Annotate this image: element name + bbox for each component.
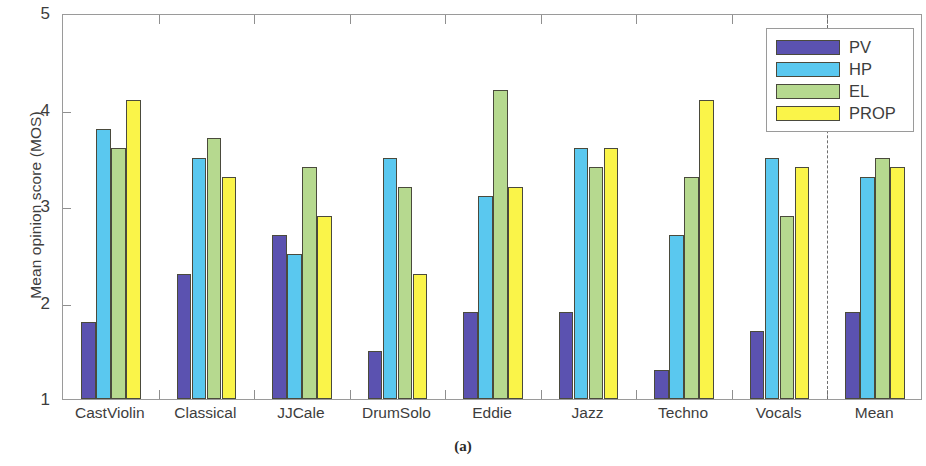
bar [111,148,126,399]
bar [463,312,478,399]
x-axis-tick-mark-top [541,15,542,24]
bar [860,177,875,399]
chart-legend: PV HP EL PROP [766,28,914,132]
bar [398,187,413,399]
legend-swatch-hp [776,62,840,77]
legend-item[interactable]: PROP [776,102,905,124]
y-axis-tick-label: 5 [2,4,50,24]
bar [222,177,237,399]
bar [207,138,222,399]
x-axis-tick-mark-top [254,15,255,24]
bar [780,216,795,399]
y-axis-tick-label: 2 [2,294,50,314]
bar [383,158,398,399]
x-axis-tick-mark-bottom [445,390,446,399]
bar [478,196,493,399]
bar [177,274,192,399]
y-axis-tick-mark [63,112,71,113]
x-axis-tick-mark-top [159,15,160,24]
x-axis-tick-label: Jazz [572,404,604,422]
y-axis-tick-mark [63,305,71,306]
legend-item[interactable]: PV [776,36,905,58]
legend-label-el: EL [849,83,869,100]
bar [302,167,317,399]
bar [126,100,141,399]
y-axis-tick-label: 3 [2,197,50,217]
y-axis-tick-label: 1 [2,390,50,410]
x-axis-tick-label: DrumSolo [362,404,431,422]
bar [81,322,96,399]
legend-swatch-el [776,84,840,99]
bar [684,177,699,399]
legend-label-prop: PROP [849,105,896,122]
y-axis-tick-label: 4 [2,101,50,121]
legend-item[interactable]: HP [776,58,905,80]
y-axis-tick-mark [63,208,71,209]
legend-label-pv: PV [849,39,871,56]
bar [750,331,765,399]
bar [604,148,619,399]
bar [317,216,332,399]
x-axis-tick-mark-top [445,15,446,24]
bar [669,235,684,399]
bar [845,312,860,399]
bar [287,254,302,399]
bar [654,370,669,399]
bar [413,274,428,399]
figure-caption: (a) [0,438,926,455]
x-axis-tick-mark-top [350,15,351,24]
x-axis-tick-label: JJCale [277,404,324,422]
bar [96,129,111,399]
x-axis-tick-label: Classical [174,404,236,422]
bar [574,148,589,399]
bar [192,158,207,399]
legend-swatch-prop [776,106,840,121]
x-axis-tick-label: Eddie [472,404,512,422]
bar [493,90,508,399]
bar [368,351,383,399]
x-axis-tick-mark-bottom [254,390,255,399]
bar [875,158,890,399]
bar [795,167,810,399]
x-axis-tick-mark-bottom [636,390,637,399]
bar [890,167,905,399]
legend-label-hp: HP [849,61,872,78]
bar [765,158,780,399]
x-axis-tick-mark-top [636,15,637,24]
x-axis-tick-mark-bottom [350,390,351,399]
bar [559,312,574,399]
x-axis-tick-mark-bottom [159,390,160,399]
x-axis-tick-label: Vocals [756,404,802,422]
x-axis-tick-mark-top [732,15,733,24]
x-axis-tick-label: Mean [855,404,894,422]
bar [589,167,604,399]
y-axis-tick-labels: 12345 [0,0,58,466]
x-axis-tick-label: Techno [658,404,708,422]
x-axis-tick-mark-bottom [732,390,733,399]
bar [272,235,287,399]
legend-item[interactable]: EL [776,80,905,102]
legend-swatch-pv [776,40,840,55]
bar [699,100,714,399]
figure-container: Mean opinion score (MOS) 12345 CastVioli… [0,0,926,466]
bar [508,187,523,399]
x-axis-tick-mark-bottom [541,390,542,399]
x-axis-tick-label: CastViolin [75,404,145,422]
